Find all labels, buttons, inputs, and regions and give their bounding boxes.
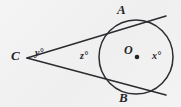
geometry-diagram: A B C O x° y° z°: [0, 0, 181, 107]
point-label-b: B: [119, 91, 128, 104]
tangent-line-upper: [27, 16, 166, 58]
angle-label-x: x°: [152, 51, 161, 61]
tangent-line-lower: [27, 58, 166, 95]
center-point-dot: [135, 55, 140, 60]
center-label-o: O: [124, 44, 133, 56]
angle-label-z: z°: [80, 51, 88, 61]
point-label-c: C: [11, 49, 20, 62]
angle-label-y: y°: [35, 48, 43, 58]
point-label-a: A: [117, 3, 126, 16]
